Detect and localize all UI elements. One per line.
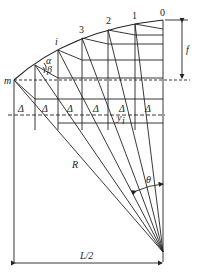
label-theta: θ (146, 174, 151, 185)
label-R: R (71, 159, 78, 170)
node-label-2: 2 (106, 15, 111, 26)
theta-arc (136, 184, 163, 191)
label-y-sub: i (122, 115, 125, 126)
node-label-3: 3 (79, 24, 84, 35)
node-label-i: i (55, 36, 58, 47)
delta-4: Δ (92, 103, 99, 114)
arch-truss-diagram: 0 1 2 3 i m f α β Δ Δ Δ Δ Δ Δ y i R θ L/… (0, 0, 199, 273)
label-beta: β (46, 64, 52, 75)
structure-lines (8, 20, 190, 263)
diagram-canvas: 0 1 2 3 i m f α β Δ Δ Δ Δ Δ Δ y i R θ L/… (0, 0, 199, 273)
label-f: f (186, 44, 190, 55)
node-label-1: 1 (132, 10, 137, 21)
delta-1: Δ (17, 103, 24, 114)
delta-6: Δ (144, 103, 151, 114)
label-half-span: L/2 (79, 250, 93, 261)
delta-3: Δ (66, 103, 73, 114)
node-label-m: m (4, 75, 11, 86)
node-label-0: 0 (160, 7, 165, 18)
delta-2: Δ (41, 103, 48, 114)
labels: 0 1 2 3 i m f α β Δ Δ Δ Δ Δ Δ y i R θ L/… (4, 7, 190, 261)
